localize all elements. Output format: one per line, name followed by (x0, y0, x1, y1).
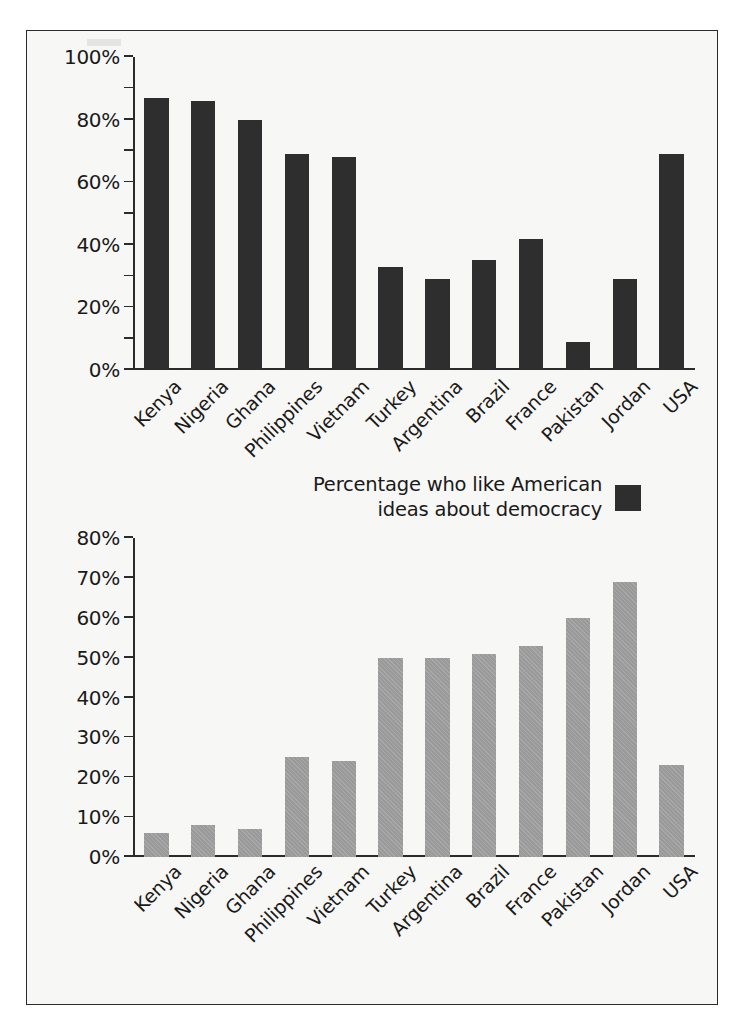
chart-figure-frame: 0%20%40%60%80%100% KenyaNigeriaGhanaPhil… (26, 30, 718, 1005)
y-tick (124, 212, 133, 214)
chart-panel-like-american-ideas: 0%20%40%60%80%100% KenyaNigeriaGhanaPhil… (27, 31, 719, 531)
plot-area-top: 0%20%40%60%80%100% (133, 57, 695, 370)
y-tick-label: 80% (76, 108, 120, 132)
bar (144, 833, 168, 857)
y-tick-label: 80% (76, 526, 120, 550)
legend-top-swatch (615, 485, 641, 511)
y-tick (124, 616, 133, 618)
y-tick (124, 536, 133, 538)
y-tick-label: 20% (76, 765, 120, 789)
y-tick-label: 0% (89, 358, 120, 382)
y-tick (124, 181, 133, 183)
y-tick (124, 656, 133, 658)
y-tick (124, 696, 133, 698)
y-tick (124, 243, 133, 245)
y-tick (124, 855, 133, 857)
y-tick (124, 118, 133, 120)
x-axis-labels-top: KenyaNigeriaGhanaPhilippinesVietnamTurke… (133, 374, 695, 466)
legend-top-line1: Percentage who like American (313, 473, 602, 498)
y-tick-label: 60% (76, 606, 120, 630)
y-tick (124, 275, 133, 277)
y-tick-label: 60% (76, 170, 120, 194)
y-tick (124, 306, 133, 308)
bar (144, 98, 168, 370)
legend-top-text: Percentage who like American ideas about… (313, 473, 602, 522)
y-tick (124, 337, 133, 339)
y-tick-label: 100% (64, 45, 120, 69)
y-tick-label: 40% (76, 686, 120, 710)
y-tick (124, 368, 133, 370)
chart-panel-dislike-american-views: 0%10%20%30%40%50%60%70%80% KenyaNigeriaG… (27, 519, 719, 1006)
y-tick (124, 87, 133, 89)
y-tick-label: 0% (89, 845, 120, 869)
x-axis-labels-bottom: KenyaNigeriaGhanaPhilippinesVietnamTurke… (133, 859, 695, 951)
y-tick (124, 576, 133, 578)
y-tick (124, 776, 133, 778)
y-tick-label: 40% (76, 233, 120, 257)
y-tick-label: 50% (76, 646, 120, 670)
y-tick-label: 10% (76, 805, 120, 829)
bar-series-bottom (133, 538, 695, 857)
y-tick-label: 20% (76, 295, 120, 319)
legend-top: Percentage who like American ideas about… (313, 473, 641, 522)
y-tick (124, 736, 133, 738)
y-tick-label: 30% (76, 725, 120, 749)
y-tick (124, 149, 133, 151)
y-tick (124, 55, 133, 57)
bar-series-top (133, 57, 695, 370)
y-tick (124, 816, 133, 818)
bar (613, 582, 637, 857)
bar (191, 101, 215, 370)
y-tick-label: 70% (76, 566, 120, 590)
plot-area-bottom: 0%10%20%30%40%50%60%70%80% (133, 538, 695, 857)
